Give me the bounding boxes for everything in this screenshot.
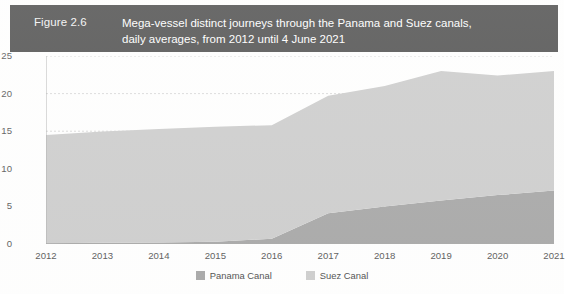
y-tick-label: 5 <box>0 201 12 211</box>
legend-label-panama-canal: Panama Canal <box>210 270 272 281</box>
page-title: Mega-vessel distinct journeys through th… <box>122 15 542 47</box>
figure-title-line-2: daily averages, from 2012 until 4 June 2… <box>122 31 542 47</box>
x-tick-label: 2020 <box>478 250 518 261</box>
y-tick-label: 25 <box>0 51 12 61</box>
y-tick-label: 20 <box>0 89 12 99</box>
x-tick-label: 2013 <box>82 250 122 261</box>
figure-title-line-1: Mega-vessel distinct journeys through th… <box>122 15 542 31</box>
stacked-area-chart <box>46 56 554 244</box>
legend-item-panama-canal[interactable]: Panama Canal <box>196 270 272 281</box>
legend-label-suez-canal: Suez Canal <box>320 270 368 281</box>
y-tick-label: 15 <box>0 126 12 136</box>
figure-number-label: Figure 2.6 <box>34 16 87 28</box>
legend-item-suez-canal[interactable]: Suez Canal <box>306 270 368 281</box>
figure-header: Figure 2.6 Mega-vessel distinct journeys… <box>10 5 558 52</box>
legend-swatch-suez-canal <box>306 271 315 280</box>
chart-legend: Panama Canal Suez Canal <box>0 270 564 281</box>
x-tick-label: 2012 <box>26 250 66 261</box>
x-tick-label: 2021 <box>534 250 569 261</box>
legend-swatch-panama-canal <box>196 271 205 280</box>
x-tick-label: 2016 <box>252 250 292 261</box>
x-tick-label: 2017 <box>308 250 348 261</box>
area-series-group <box>46 71 554 244</box>
y-tick-label: 10 <box>0 164 12 174</box>
x-tick-label: 2014 <box>139 250 179 261</box>
x-tick-label: 2019 <box>421 250 461 261</box>
x-tick-label: 2015 <box>195 250 235 261</box>
x-tick-label: 2018 <box>365 250 405 261</box>
plot-area <box>46 56 554 244</box>
y-tick-label: 0 <box>0 239 12 249</box>
